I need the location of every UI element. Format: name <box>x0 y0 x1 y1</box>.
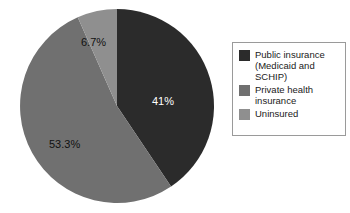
pie-label-public-insurance: 41% <box>152 95 174 107</box>
legend-label-line1: Private health <box>255 84 313 95</box>
legend-label-uninsured: Uninsured <box>255 108 298 119</box>
pie-svg <box>0 0 226 213</box>
legend-label-line1: Public insurance <box>255 49 325 60</box>
legend-item-uninsured[interactable]: Uninsured <box>239 108 340 120</box>
legend-label-public-insurance: Public insurance (Medicaid and SCHIP) <box>255 49 325 82</box>
pie-label-uninsured: 6.7% <box>81 36 106 48</box>
chart-legend: Public insurance (Medicaid and SCHIP) Pr… <box>232 42 346 136</box>
legend-swatch-private-health-insurance <box>239 85 250 96</box>
legend-item-public-insurance[interactable]: Public insurance (Medicaid and SCHIP) <box>239 49 340 82</box>
pie-chart-figure: 41% 53.3% 6.7% Public insurance (Medicai… <box>0 0 350 213</box>
legend-swatch-uninsured <box>239 109 250 120</box>
legend-label-line3: SCHIP) <box>255 71 325 82</box>
pie-plot-area: 41% 53.3% 6.7% <box>0 0 226 213</box>
legend-label-line1: Uninsured <box>255 108 298 119</box>
legend-label-private-health-insurance: Private health insurance <box>255 84 313 106</box>
legend-item-private-health-insurance[interactable]: Private health insurance <box>239 84 340 106</box>
pie-label-private-health-insurance: 53.3% <box>49 138 80 150</box>
legend-label-line2: (Medicaid and <box>255 60 325 71</box>
legend-swatch-public-insurance <box>239 50 250 61</box>
legend-label-line2: insurance <box>255 95 313 106</box>
